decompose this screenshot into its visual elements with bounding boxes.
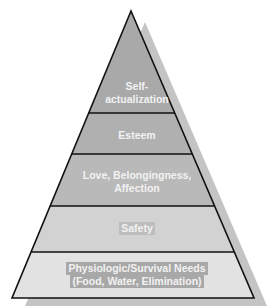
label-line: Love, Belongingness, [0,169,274,182]
label-line: (Food, Water, Elimination) [70,275,203,288]
label-esteem: Esteem [0,129,274,142]
label-line: Esteem [0,129,274,142]
label-line: actualization [0,93,274,106]
label-safety: Safety [0,222,274,235]
label-line: Physiologic/Survival Needs [66,262,207,275]
label-physiologic: Physiologic/Survival Needs (Food, Water,… [0,262,274,288]
label-line: Safety [119,222,155,235]
pyramid-diagram: Self- actualization Esteem Love, Belongi… [0,0,274,308]
label-self-actualization: Self- actualization [0,80,274,106]
label-line: Self- [0,80,274,93]
label-love: Love, Belongingness, Affection [0,169,274,195]
label-line: Affection [0,182,274,195]
